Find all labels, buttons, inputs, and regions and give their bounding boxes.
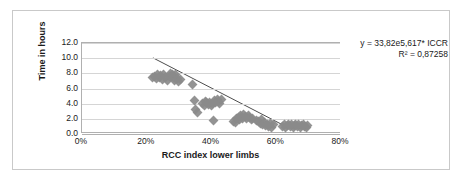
- x-tick-label: 20%: [126, 136, 166, 146]
- scatter-chart: Time in hours 0.02.04.06.08.010.012.0 0%…: [0, 0, 462, 184]
- plot-area: [81, 42, 340, 133]
- x-tick-label: 60%: [255, 136, 295, 146]
- x-tick-label: 40%: [191, 136, 231, 146]
- trendline-equation-annotation: y = 33,82e5,617* ICCR R² = 0,87258: [308, 38, 448, 60]
- gridline: [82, 134, 340, 135]
- gridline: [82, 58, 340, 59]
- y-tick-label: 10.0: [48, 52, 78, 62]
- y-tick-label: 12.0: [48, 37, 78, 47]
- data-point: [208, 115, 218, 125]
- gridline: [82, 89, 340, 90]
- x-tick-label: 80%: [320, 136, 360, 146]
- r-squared-text: R² = 0,87258: [308, 49, 448, 60]
- y-tick-label: 8.0: [48, 67, 78, 77]
- y-tick-label: 2.0: [48, 113, 78, 123]
- gridline: [82, 43, 340, 44]
- gridline: [82, 73, 340, 74]
- y-axis-tick-labels: 0.02.04.06.08.010.012.0: [44, 42, 78, 133]
- x-tick-label: 0%: [61, 136, 101, 146]
- y-tick-label: 6.0: [48, 83, 78, 93]
- y-tick-label: 4.0: [48, 98, 78, 108]
- equation-text: y = 33,82e5,617* ICCR: [308, 38, 448, 49]
- x-axis-title: RCC index lower limbs: [81, 150, 340, 160]
- x-axis-tick-labels: 0%20%40%60%80%: [81, 136, 340, 148]
